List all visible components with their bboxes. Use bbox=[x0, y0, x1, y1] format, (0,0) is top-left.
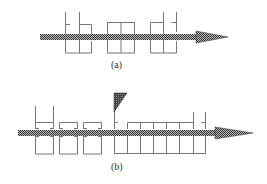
left-block bbox=[36, 106, 54, 129]
panel-a bbox=[66, 12, 177, 53]
small-boxes-top bbox=[60, 123, 102, 130]
channel-group-3 bbox=[151, 12, 177, 53]
channel-group-1 bbox=[66, 12, 92, 53]
small-boxes-bottom bbox=[36, 136, 102, 154]
panel-b bbox=[36, 100, 206, 154]
diagram-canvas bbox=[0, 0, 267, 184]
panel-a-label: (a) bbox=[111, 59, 122, 70]
hatched-wedge bbox=[114, 93, 127, 112]
segmented-channel bbox=[115, 100, 206, 154]
panel-b-label: (b) bbox=[111, 161, 123, 172]
